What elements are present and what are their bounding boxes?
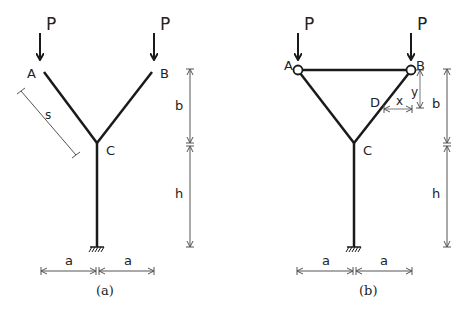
node-label-c: C — [106, 143, 115, 158]
dimension-a-right: a — [356, 253, 412, 271]
dimension-b: b — [432, 69, 447, 143]
node-label-b: B — [160, 66, 169, 81]
dim-label-h: h — [175, 186, 183, 201]
caption-a: (a) — [96, 283, 114, 298]
dim-label-a-left: a — [65, 253, 73, 268]
caption-b: (b) — [359, 283, 377, 298]
node-label-b: B — [416, 58, 425, 73]
load-label-left: P — [304, 14, 314, 34]
member-ac — [300, 73, 354, 143]
dimension-h: h — [432, 146, 447, 247]
dim-label-a-right: a — [124, 253, 132, 268]
fixed-support-icon — [346, 247, 361, 252]
dimension-a-right: a — [99, 253, 154, 271]
load-label-right: P — [417, 14, 427, 34]
node-label-d: D — [370, 95, 380, 110]
dim-label-b: b — [432, 96, 440, 111]
dimension-h: h — [175, 146, 190, 247]
dim-label-a-right: a — [380, 253, 388, 268]
dimension-a-left: a — [41, 253, 96, 271]
pin-joint-b-icon — [407, 66, 416, 75]
dimension-x: x — [384, 94, 412, 109]
fixed-support-icon — [89, 247, 104, 252]
node-label-a: A — [284, 58, 293, 73]
node-label-a: A — [27, 66, 36, 81]
load-arrow-left: P — [40, 14, 56, 60]
member-bc — [97, 72, 152, 143]
dimension-a-left: a — [297, 253, 353, 271]
pin-joint-a-icon — [294, 66, 303, 75]
member-bc — [354, 73, 409, 143]
dim-label-y: y — [411, 85, 418, 99]
load-arrow-left: P — [298, 14, 314, 60]
dim-label-s: s — [45, 108, 51, 122]
dim-label-h: h — [432, 186, 440, 201]
load-arrow-right: P — [154, 14, 170, 60]
dimension-b: b — [175, 69, 190, 143]
figure-stage: P P A B C s — [0, 0, 467, 311]
load-label-left: P — [46, 14, 56, 34]
dimension-y: y — [411, 70, 420, 108]
figure-a: P P A B C s — [17, 14, 190, 298]
figure-b: P P A B C D x — [284, 14, 447, 298]
member-ac — [44, 72, 97, 143]
dimension-s: s — [17, 88, 80, 158]
node-label-c: C — [363, 143, 372, 158]
dim-label-a-left: a — [322, 253, 330, 268]
dim-label-x: x — [396, 94, 403, 108]
load-label-right: P — [160, 14, 170, 34]
load-arrow-right: P — [411, 14, 427, 60]
dim-label-b: b — [175, 98, 183, 113]
